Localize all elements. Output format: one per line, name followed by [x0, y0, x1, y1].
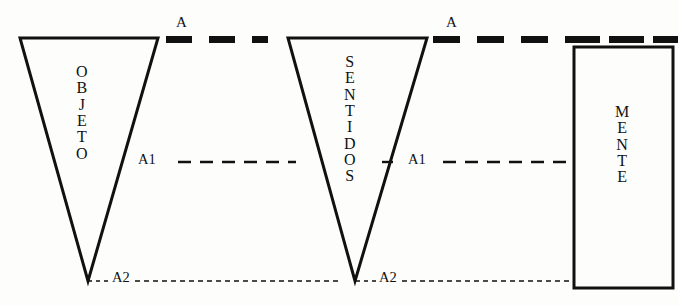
mente-letter-1: E	[617, 120, 627, 136]
sentidos-letter-5: D	[344, 136, 356, 152]
diagram-canvas: O B J E T O S E N T I D O S M E N T E A …	[0, 0, 678, 306]
level-marker-a2-left: A2	[112, 269, 130, 286]
sentidos-letter-7: S	[345, 168, 354, 184]
objeto-letter-0: O	[76, 64, 88, 80]
sentidos-letter-2: N	[344, 87, 356, 103]
objeto-letter-4: T	[77, 129, 87, 145]
sentidos-letter-1: E	[345, 70, 355, 86]
level-marker-a-right: A	[446, 14, 457, 31]
level-marker-a1-right: A1	[408, 151, 426, 168]
objeto-letter-5: O	[76, 146, 88, 162]
objeto-letter-1: B	[76, 80, 87, 96]
shape-label-objeto: O B J E T O	[76, 64, 88, 162]
mente-letter-2: N	[616, 137, 628, 153]
sentidos-letter-6: O	[344, 152, 356, 168]
objeto-letter-3: E	[77, 113, 87, 129]
diagram-figure	[0, 0, 678, 306]
shape-sentidos-triangle	[288, 38, 427, 281]
level-marker-a2-right: A2	[379, 269, 397, 286]
mente-letter-0: M	[615, 104, 629, 120]
mente-letter-4: E	[617, 169, 627, 185]
level-marker-a-left: A	[176, 14, 187, 31]
shape-label-sentidos: S E N T I D O S	[344, 54, 356, 185]
sentidos-letter-4: I	[347, 119, 353, 135]
shape-label-mente: M E N T E	[615, 104, 629, 186]
mente-letter-3: T	[617, 153, 627, 169]
sentidos-letter-0: S	[345, 54, 354, 70]
sentidos-letter-3: T	[345, 103, 355, 119]
level-marker-a1-left: A1	[138, 151, 156, 168]
objeto-letter-2: J	[79, 97, 85, 113]
